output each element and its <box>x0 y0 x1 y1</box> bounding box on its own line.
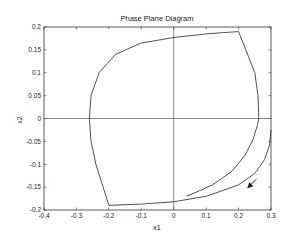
x-tick-label: 0.2 <box>234 212 243 219</box>
x-tick-label: 0.1 <box>202 212 211 219</box>
x-tick-label: -0.3 <box>71 212 83 219</box>
x-tick-label: 0 <box>172 212 176 219</box>
y-tick-label: -0.15 <box>26 183 41 190</box>
y-tick-label: -0.2 <box>30 206 42 213</box>
phase-plane-chart: Phase Plane Diagram -0.4-0.3-0.2-0.100.1… <box>0 0 294 236</box>
y-axis-label: x2 <box>16 116 23 124</box>
y-tick-label: 0.05 <box>28 92 41 99</box>
y-tick-label: 0.1 <box>32 69 41 76</box>
x-tick-label: -0.1 <box>136 212 148 219</box>
y-tick-label: 0.15 <box>28 46 41 53</box>
y-tick-label: -0.05 <box>26 138 41 145</box>
chart-title: Phase Plane Diagram <box>121 14 194 23</box>
x-axis-label: x1 <box>153 224 161 231</box>
y-tick-label: -0.1 <box>30 161 42 168</box>
y-tick-label: 0.2 <box>32 23 41 30</box>
x-tick-label: 0.3 <box>266 212 275 219</box>
x-tick-label: -0.2 <box>103 212 115 219</box>
y-tick-label: 0 <box>37 115 41 122</box>
